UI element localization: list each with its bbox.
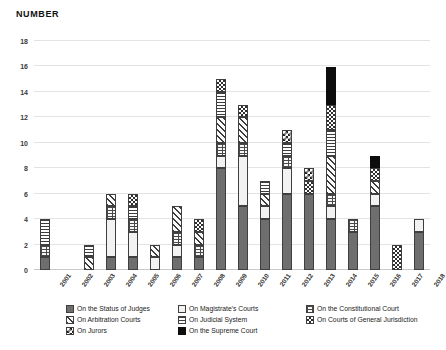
- y-axis-labels: 024681012141618: [0, 41, 30, 270]
- bar-segment: [194, 245, 204, 258]
- bar-stack[interactable]: [128, 194, 138, 270]
- bar-segment: [304, 168, 314, 181]
- legend-item[interactable]: On the Constitutional Court: [306, 303, 426, 314]
- x-axis-tick-label: 2005: [146, 272, 160, 288]
- y-axis-tick-label: 12: [20, 114, 28, 121]
- bar-segment: [326, 130, 336, 155]
- bar-stack[interactable]: [150, 245, 160, 270]
- legend-item[interactable]: On Jurors: [66, 325, 178, 336]
- bar-stack[interactable]: [216, 79, 226, 270]
- x-axis-tick-label: 2014: [344, 272, 358, 288]
- bar-segment: [194, 232, 204, 245]
- bar-segment: [106, 257, 116, 270]
- x-axis-tick-label: 2007: [190, 272, 204, 288]
- bar-segment: [326, 219, 336, 270]
- bar-segment: [84, 257, 94, 270]
- bar-segment: [326, 206, 336, 219]
- legend-label: On Judicial System: [189, 314, 247, 325]
- bar-segment: [216, 79, 226, 92]
- bar-segment: [414, 232, 424, 270]
- bar-stack[interactable]: [326, 67, 336, 271]
- legend-swatch-icon: [306, 316, 314, 324]
- legend-item[interactable]: On the Supreme Court: [178, 325, 306, 336]
- bar-segment: [172, 245, 182, 258]
- bar-segment: [370, 156, 380, 169]
- bar-stack[interactable]: [84, 245, 94, 270]
- chart-legend: On the Status of JudgesOn Magistrate's C…: [66, 303, 426, 336]
- y-axis-tick-label: 6: [24, 190, 28, 197]
- bar-segment: [260, 219, 270, 270]
- bar-segment: [40, 245, 50, 258]
- bar-segment: [150, 257, 160, 270]
- bar-segment: [150, 245, 160, 258]
- x-axis-tick-label: 2017: [410, 272, 424, 288]
- bar-segment: [348, 219, 358, 232]
- bar-segment: [40, 257, 50, 270]
- bar-segment: [238, 143, 248, 156]
- bar-stack[interactable]: [106, 194, 116, 270]
- y-axis-tick-label: 10: [20, 139, 28, 146]
- y-axis-tick-label: 14: [20, 88, 28, 95]
- bar-stack[interactable]: [392, 245, 402, 270]
- bar-stack[interactable]: [238, 105, 248, 270]
- bar-segment: [172, 232, 182, 245]
- bar-segment: [326, 194, 336, 207]
- legend-swatch-icon: [66, 327, 74, 335]
- bar-segment: [216, 92, 226, 117]
- y-axis-tick-label: 0: [24, 267, 28, 274]
- x-axis-tick-label: 2008: [212, 272, 226, 288]
- bar-segment: [128, 206, 138, 219]
- bar-segment: [282, 156, 292, 169]
- y-axis-tick-label: 8: [24, 165, 28, 172]
- bar-segment: [238, 156, 248, 207]
- x-axis-tick-label: 2003: [102, 272, 116, 288]
- bar-stack[interactable]: [282, 130, 292, 270]
- bar-stack[interactable]: [370, 156, 380, 270]
- bar-segment: [40, 219, 50, 244]
- bar-stack[interactable]: [194, 219, 204, 270]
- bar-stack[interactable]: [348, 219, 358, 270]
- y-axis-tick-label: 4: [24, 216, 28, 223]
- bar-segment: [216, 156, 226, 169]
- legend-item[interactable]: On Judicial System: [178, 314, 306, 325]
- bar-stack[interactable]: [172, 206, 182, 270]
- legend-swatch-icon: [66, 316, 74, 324]
- x-axis-tick-label: 2018: [432, 272, 446, 288]
- legend-item[interactable]: On Arbitration Courts: [66, 314, 178, 325]
- legend-item[interactable]: On Courts of General Jurisdiction: [306, 314, 426, 325]
- legend-item[interactable]: On the Status of Judges: [66, 303, 178, 314]
- bar-segment: [370, 194, 380, 207]
- bar-segment: [414, 219, 424, 232]
- bar-segment: [304, 181, 314, 194]
- y-axis-tick-label: 2: [24, 241, 28, 248]
- bar-segment: [106, 206, 116, 219]
- bar-segment: [238, 105, 248, 118]
- legend-swatch-icon: [178, 327, 186, 335]
- bar-segment: [128, 219, 138, 232]
- plot-area: [34, 41, 430, 270]
- bar-segment: [84, 245, 94, 258]
- legend-swatch-icon: [178, 305, 186, 313]
- bar-segment: [282, 130, 292, 143]
- y-axis-tick-label: 16: [20, 63, 28, 70]
- bar-segment: [282, 168, 292, 193]
- bar-segment: [370, 206, 380, 270]
- bar-segment: [326, 156, 336, 194]
- legend-swatch-icon: [306, 305, 314, 313]
- bar-segment: [194, 219, 204, 232]
- bar-stack[interactable]: [260, 181, 270, 270]
- bar-segment: [260, 194, 270, 207]
- x-axis-tick-label: 2011: [278, 272, 292, 288]
- x-axis-tick-label: 2013: [322, 272, 336, 288]
- bar-segment: [172, 206, 182, 231]
- bar-segment: [216, 143, 226, 156]
- bar-stack[interactable]: [40, 219, 50, 270]
- legend-label: On Arbitration Courts: [77, 314, 140, 325]
- bar-stack[interactable]: [304, 168, 314, 270]
- bar-segment: [128, 194, 138, 207]
- bar-segment: [128, 232, 138, 257]
- legend-label: On Magistrate's Courts: [189, 303, 258, 314]
- bar-stack[interactable]: [414, 219, 424, 270]
- legend-item[interactable]: On Magistrate's Courts: [178, 303, 306, 314]
